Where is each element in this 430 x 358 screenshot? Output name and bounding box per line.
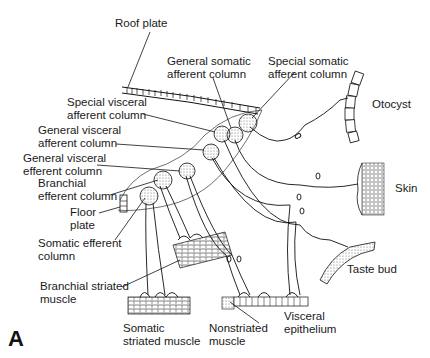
label-line: Visceral <box>284 310 336 323</box>
se-cluster <box>140 187 158 205</box>
label-skin: Skin <box>395 182 417 195</box>
label-line: Somatic efferent <box>38 237 122 250</box>
label-general-somatic-afferent: General somatic afferent column <box>167 55 251 80</box>
label-line: striated muscle <box>123 335 200 348</box>
label-line: afferent column <box>38 137 121 150</box>
label-line: epithelium <box>284 323 336 336</box>
sva-cluster <box>214 126 230 142</box>
label-line: General visceral <box>38 124 121 137</box>
label-line: column <box>38 250 122 263</box>
label-floor-plate: Floor plate <box>70 206 96 231</box>
label-line: Branchial striated <box>40 280 129 293</box>
label-taste-bud: Taste bud <box>347 263 397 276</box>
label-branchial-striated-muscle: Branchial striated muscle <box>40 280 129 305</box>
label-line: efferent column <box>38 190 117 203</box>
label-visceral-epithelium: Visceral epithelium <box>284 310 336 335</box>
label-somatic-efferent: Somatic efferent column <box>38 237 122 262</box>
label-line: Somatic <box>123 322 200 335</box>
label-line: afferent column <box>268 68 349 81</box>
label-line: plate <box>70 219 96 232</box>
gve-cluster <box>179 163 195 179</box>
label-line: General somatic <box>167 55 251 68</box>
label-line: afferent column <box>167 68 251 81</box>
label-general-visceral-efferent: General visceral efferent column <box>23 152 106 177</box>
label-line: efferent column <box>23 165 106 178</box>
label-special-somatic-afferent: Special somatic afferent column <box>268 55 349 80</box>
label-line: muscle <box>209 335 268 348</box>
label-line: General visceral <box>23 152 106 165</box>
somatic-striated-muscle <box>128 297 190 314</box>
label-otocyst: Otocyst <box>372 98 411 111</box>
visceral-epithelium <box>222 297 308 309</box>
label-roof-plate: Roof plate <box>115 17 167 30</box>
label-line: Special visceral <box>67 96 147 109</box>
gva-cluster <box>203 144 219 160</box>
label-branchial-efferent: Branchial efferent column <box>38 177 117 202</box>
label-nonstriated-muscle: Nonstriated muscle <box>209 322 268 347</box>
label-line: Floor <box>70 206 96 219</box>
label-line: Branchial <box>38 177 117 190</box>
otocyst <box>345 71 364 143</box>
label-line: muscle <box>40 293 129 306</box>
skin <box>357 163 384 215</box>
label-special-visceral-afferent: Special visceral afferent column <box>67 96 147 121</box>
ssa-cluster <box>239 114 257 132</box>
label-general-visceral-afferent: General visceral afferent column <box>38 124 121 149</box>
label-line: Nonstriated <box>209 322 268 335</box>
label-somatic-striated-muscle: Somatic striated muscle <box>123 322 200 347</box>
label-line: Special somatic <box>268 55 349 68</box>
panel-letter: A <box>8 326 24 352</box>
label-line: afferent column <box>67 109 147 122</box>
